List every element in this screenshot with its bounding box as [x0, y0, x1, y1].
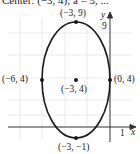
x-axis-label: x	[131, 128, 135, 138]
x-tick-label: 1	[120, 129, 125, 139]
point-left-vertex	[40, 78, 44, 82]
label-left-vertex: (−6, 4)	[2, 75, 28, 85]
label-center: (−3, 4)	[61, 85, 87, 95]
label-top-vertex: (−3, 9)	[60, 9, 86, 19]
points	[40, 20, 112, 140]
label-bottom-vertex: (−3, −1)	[58, 143, 89, 153]
point-right-vertex	[108, 78, 112, 82]
y-axis-arrow-icon	[108, 12, 113, 18]
label-right-vertex: (0, 4)	[114, 75, 135, 85]
point-center	[74, 78, 78, 82]
point-top-vertex	[74, 20, 78, 24]
y-axis-label: y	[101, 11, 105, 21]
point-bottom-vertex	[74, 136, 78, 140]
y-tick-label: 9	[102, 22, 107, 32]
